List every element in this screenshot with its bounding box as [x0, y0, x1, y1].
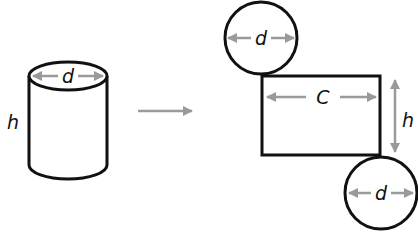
bottom-circle-diameter-label: d	[375, 182, 388, 204]
cylinder-diameter-label: d	[62, 65, 75, 87]
cylinder-net-diagram: d h d C h d	[0, 0, 418, 238]
rect-height-label: h	[402, 109, 414, 131]
top-circle-diameter-label: d	[255, 27, 268, 49]
rect-width-label: C	[316, 86, 330, 108]
cylinder: d h	[7, 62, 107, 179]
cylinder-net: d C h d	[225, 2, 417, 229]
cylinder-height-label: h	[7, 111, 19, 133]
